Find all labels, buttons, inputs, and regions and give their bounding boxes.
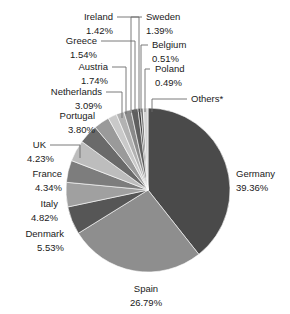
leader-line-poland <box>145 69 150 112</box>
label-germany-name: Germany <box>236 168 275 179</box>
label-uk-name: UK <box>33 139 47 150</box>
label-belgium-name: Belgium <box>152 39 186 50</box>
label-austria-name: Austria <box>78 61 108 72</box>
label-netherlands-name: Netherlands <box>51 86 102 97</box>
label-sweden-pct: 1.39% <box>146 25 173 36</box>
label-poland-pct: 0.49% <box>155 77 182 88</box>
label-spain-pct: 26.79% <box>130 297 163 308</box>
leader-line-sweden <box>131 17 142 113</box>
label-sweden-name: Sweden <box>146 11 180 22</box>
label-greece-pct: 1.54% <box>70 49 97 60</box>
label-others-name: Others* <box>191 93 224 104</box>
label-poland-name: Poland <box>155 63 185 74</box>
label-germany-pct: 39.36% <box>236 182 269 193</box>
label-france-pct: 4.34% <box>35 182 62 193</box>
label-spain-name: Spain <box>134 283 158 294</box>
label-italy-name: Italy <box>41 198 59 209</box>
label-denmark-name: Denmark <box>25 228 64 239</box>
label-greece-name: Greece <box>66 35 97 46</box>
label-portugal-pct: 3.80% <box>68 124 95 135</box>
leader-line-austria <box>112 67 126 114</box>
pie-chart-figure: Ireland 1.42% Sweden 1.39% Greece 1.54% … <box>0 0 290 314</box>
label-ireland-name: Ireland <box>84 11 113 22</box>
label-portugal-name: Portugal <box>60 110 95 121</box>
label-france-name: France <box>32 168 62 179</box>
label-denmark-pct: 5.53% <box>37 242 64 253</box>
leader-line-belgium <box>141 45 148 112</box>
pie-chart-svg: Ireland 1.42% Sweden 1.39% Greece 1.54% … <box>0 0 290 314</box>
label-italy-pct: 4.82% <box>31 212 58 223</box>
label-austria-pct: 1.74% <box>81 75 108 86</box>
leader-line-ireland <box>117 17 139 112</box>
label-uk-pct: 4.23% <box>27 153 54 164</box>
